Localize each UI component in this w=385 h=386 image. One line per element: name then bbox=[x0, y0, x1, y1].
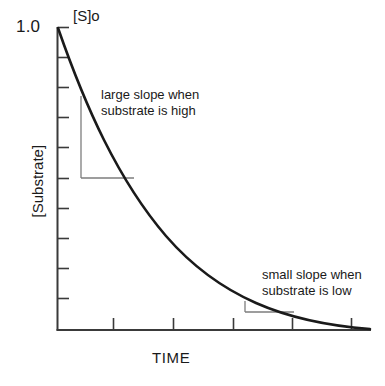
chart-plot-area bbox=[0, 0, 385, 386]
low-slope-annotation-line2: substrate is low bbox=[262, 283, 352, 298]
initial-concentration-label: [S]o bbox=[73, 7, 100, 25]
high-slope-annotation-line2: substrate is high bbox=[101, 103, 196, 118]
y-axis-ticks bbox=[58, 28, 69, 299]
high-slope-annotation-line1: large slope when bbox=[101, 87, 199, 102]
y-axis-max-tick-label: 1.0 bbox=[16, 17, 40, 38]
low-slope-annotation-line1: small slope when bbox=[262, 267, 362, 282]
y-axis-title: [Substrate] bbox=[29, 121, 47, 241]
x-axis-ticks bbox=[114, 318, 352, 329]
low-slope-annotation: small slope whensubstrate is low bbox=[262, 267, 362, 299]
x-axis-title: TIME bbox=[152, 349, 190, 367]
substrate-decay-chart: 1.0 [S]o large slope whensubstrate is hi… bbox=[0, 0, 385, 386]
high-slope-annotation: large slope whensubstrate is high bbox=[101, 87, 199, 119]
